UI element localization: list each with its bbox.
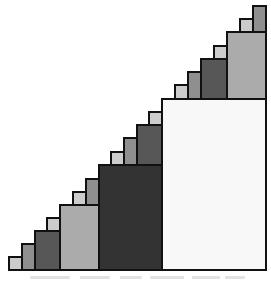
block-small-light: [9, 257, 22, 270]
block-darkest: [99, 165, 162, 270]
staircase-diagram: [0, 0, 271, 283]
block-small-medium: [86, 179, 99, 205]
block-small-light: [240, 19, 253, 32]
block-small-light: [111, 152, 124, 165]
block-lightgrey: [60, 205, 99, 270]
block-small-light: [149, 112, 162, 125]
block-small-light: [47, 218, 60, 231]
block-small-medium: [253, 6, 266, 32]
block-small-light: [73, 192, 86, 205]
caption-text-blur: [120, 276, 142, 279]
caption-text-blur: [30, 276, 70, 279]
block-dark: [137, 125, 162, 165]
caption-text-blur: [192, 276, 220, 279]
block-dark: [201, 59, 227, 99]
block-lightgrey: [227, 32, 266, 99]
caption-text-blur: [225, 276, 245, 279]
caption-text-blur: [150, 276, 184, 279]
block-dark: [35, 231, 60, 270]
block-small-light: [175, 85, 188, 99]
block-small-light: [214, 46, 227, 59]
block-small-medium: [188, 72, 201, 99]
block-small-medium: [22, 244, 35, 270]
block-small-medium: [124, 138, 137, 165]
caption-text-blur: [80, 276, 110, 279]
block-white: [162, 99, 266, 270]
